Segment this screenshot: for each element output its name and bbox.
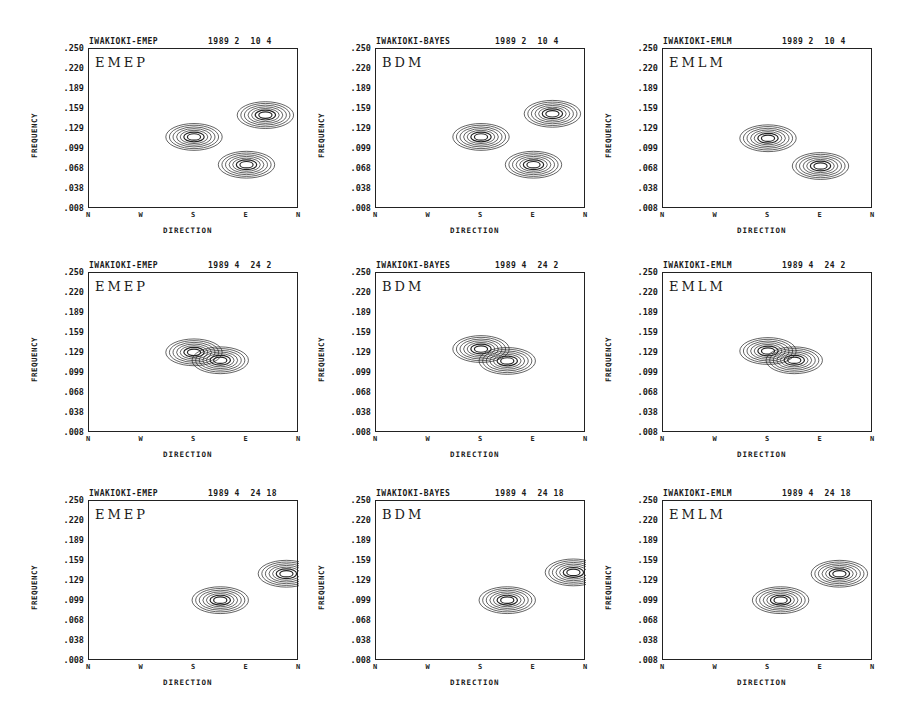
x-axis-label: DIRECTION [450,678,500,687]
y-tick-label: .250 [48,495,84,505]
y-tick-label: .099 [335,595,371,605]
y-tick-label: .038 [48,635,84,645]
plot-area: BDM [375,500,585,660]
plot-area: EMLM [662,272,872,432]
plot-area: EMLM [662,500,872,660]
x-tick-label: N [657,435,667,443]
y-tick-label: .099 [48,367,84,377]
y-tick-label: .159 [335,327,371,337]
y-tick-label: .008 [48,427,84,437]
y-tick-label: .099 [335,367,371,377]
panel-date: 1989 4 24 18 [495,489,564,498]
y-tick-label: .159 [48,103,84,113]
y-axis-label: FREQUENCY [30,113,39,158]
y-tick-label: .099 [48,595,84,605]
y-tick-label: .129 [48,347,84,357]
y-tick-label: .008 [48,655,84,665]
y-tick-label: .129 [48,123,84,133]
y-tick-label: .008 [622,427,658,437]
y-tick-label: .220 [335,63,371,73]
y-tick-label: .250 [335,267,371,277]
y-tick-label: .250 [48,43,84,53]
y-tick-label: .068 [335,163,371,173]
x-tick-label: S [188,435,198,443]
y-tick-label: .220 [335,287,371,297]
x-axis-label: DIRECTION [450,450,500,459]
panel-date: 1989 4 24 2 [208,261,272,270]
x-tick-label: W [423,435,433,443]
y-tick-label: .250 [335,495,371,505]
y-tick-label: .099 [48,143,84,153]
contour-lines [663,501,873,661]
panel-title: IWAKIOKI-EMEP [89,261,158,270]
y-tick-label: .129 [335,575,371,585]
y-tick-label: .008 [48,203,84,213]
y-tick-label: .159 [48,555,84,565]
plot-area: EMEP [88,500,298,660]
y-tick-label: .220 [622,515,658,525]
y-axis-label: FREQUENCY [317,113,326,158]
x-tick-label: N [580,663,590,671]
panel-date: 1989 4 24 2 [495,261,559,270]
panel-date: 1989 2 10 4 [208,37,272,46]
x-tick-label: E [241,435,251,443]
x-tick-label: N [657,211,667,219]
y-tick-label: .189 [622,307,658,317]
x-tick-label: N [370,663,380,671]
y-tick-label: .129 [622,123,658,133]
y-tick-label: .189 [335,83,371,93]
y-tick-label: .250 [622,267,658,277]
x-tick-label: S [475,663,485,671]
x-tick-label: N [293,435,303,443]
y-axis-label: FREQUENCY [30,337,39,382]
x-tick-label: W [423,663,433,671]
y-tick-label: .068 [48,163,84,173]
y-tick-label: .008 [335,655,371,665]
y-tick-label: .220 [48,287,84,297]
y-tick-label: .220 [622,63,658,73]
x-tick-label: W [136,435,146,443]
y-tick-label: .220 [48,63,84,73]
contour-lines [89,501,299,661]
y-tick-label: .220 [622,287,658,297]
y-tick-label: .129 [335,347,371,357]
y-tick-label: .129 [335,123,371,133]
panel-title: IWAKIOKI-EMLM [663,37,732,46]
x-tick-label: W [423,211,433,219]
panel-title: IWAKIOKI-BAYES [376,261,450,270]
x-tick-label: E [815,663,825,671]
panel-title: IWAKIOKI-EMEP [89,37,158,46]
y-tick-label: .159 [48,327,84,337]
panel-date: 1989 4 24 18 [782,489,851,498]
y-tick-label: .068 [622,387,658,397]
y-tick-label: .068 [622,163,658,173]
x-tick-label: N [580,211,590,219]
contour-lines [89,273,299,433]
contour-lines [376,273,586,433]
x-axis-label: DIRECTION [450,226,500,235]
x-tick-label: W [710,435,720,443]
plot-area: BDM [375,272,585,432]
y-axis-label: FREQUENCY [604,113,613,158]
x-tick-label: N [293,211,303,219]
y-tick-label: .068 [48,387,84,397]
contour-lines [376,49,586,209]
x-axis-label: DIRECTION [163,450,213,459]
y-tick-label: .250 [622,43,658,53]
y-tick-label: .068 [335,387,371,397]
y-tick-label: .099 [335,143,371,153]
y-tick-label: .099 [622,367,658,377]
y-tick-label: .159 [622,103,658,113]
y-tick-label: .250 [335,43,371,53]
y-tick-label: .159 [622,555,658,565]
x-tick-label: N [867,663,877,671]
y-tick-label: .008 [622,203,658,213]
x-axis-label: DIRECTION [737,450,787,459]
y-tick-label: .159 [335,103,371,113]
x-tick-label: N [83,211,93,219]
contour-lines [663,273,873,433]
panel-date: 1989 2 10 4 [782,37,846,46]
y-tick-label: .189 [48,307,84,317]
y-tick-label: .068 [335,615,371,625]
y-tick-label: .159 [622,327,658,337]
